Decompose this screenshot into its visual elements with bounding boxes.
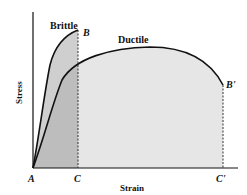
point-c-label: C (74, 173, 81, 184)
ductile-label: Ductile (118, 34, 149, 45)
x-axis-label: Strain (120, 183, 144, 193)
point-c-prime-label: C' (216, 173, 226, 184)
stress-strain-diagram: Brittle Ductile B B' A C C' Strain Stres… (0, 0, 247, 195)
point-b-label: B (82, 27, 90, 38)
point-a-label: A (27, 173, 35, 184)
y-axis-label: Stress (14, 81, 24, 104)
point-b-prime-label: B' (225, 79, 236, 90)
brittle-label: Brittle (50, 20, 78, 31)
